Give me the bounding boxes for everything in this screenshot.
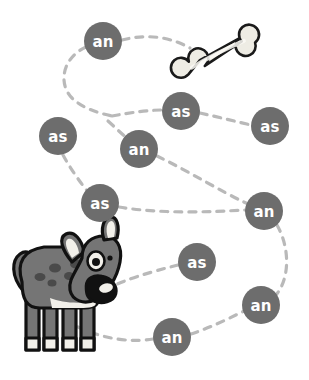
- path-segment-an5-to-an6: [191, 311, 244, 334]
- dog-eye-pupil: [92, 258, 100, 266]
- dog-spot-1: [35, 273, 46, 281]
- word-node-label: an: [128, 141, 149, 159]
- word-node-label: as: [90, 195, 109, 213]
- word-node-label: as: [187, 254, 206, 272]
- word-node[interactable]: as: [39, 117, 77, 155]
- word-node-label: an: [92, 33, 113, 51]
- dog-paw-1: [26, 338, 39, 350]
- path-segment-as2-to-as3: [200, 113, 251, 125]
- word-node[interactable]: as: [162, 92, 200, 130]
- word-node-label: an: [250, 297, 271, 315]
- path-segment-as4-to-an4: [119, 207, 245, 212]
- word-node-label: as: [48, 128, 67, 146]
- word-node[interactable]: as: [178, 243, 216, 281]
- word-node-label: as: [171, 103, 190, 121]
- word-node[interactable]: an: [84, 22, 122, 60]
- dog-spot-3: [48, 280, 57, 287]
- word-node[interactable]: an: [120, 130, 158, 168]
- bone-icon: [167, 6, 267, 100]
- word-node-label: an: [161, 329, 182, 347]
- dog-paw-4: [81, 338, 94, 350]
- word-node[interactable]: an: [245, 192, 283, 230]
- worksheet-scene: an as as as an as: [0, 0, 309, 380]
- word-node[interactable]: an: [153, 318, 191, 356]
- word-node[interactable]: as: [81, 184, 119, 222]
- word-node[interactable]: as: [251, 107, 289, 145]
- dog-eyebrow-dot: [107, 255, 112, 260]
- word-node-label: as: [260, 118, 279, 136]
- word-node[interactable]: an: [242, 286, 280, 324]
- path-segment-loop-to-as2: [112, 110, 162, 116]
- dog-illustration: [14, 217, 121, 350]
- scene-svg: an as as as an as: [0, 0, 309, 380]
- dog-paw-3: [63, 338, 76, 350]
- path-segment-an2-to-an4: [157, 156, 246, 203]
- path-segment-an1-to-bone: [122, 37, 190, 48]
- dog-paw-2: [44, 338, 57, 350]
- path-segment-an4-down-right: [276, 225, 287, 295]
- word-node-label: an: [253, 203, 274, 221]
- path-segment-as1-down: [63, 155, 88, 192]
- dog-spot-2: [49, 264, 61, 273]
